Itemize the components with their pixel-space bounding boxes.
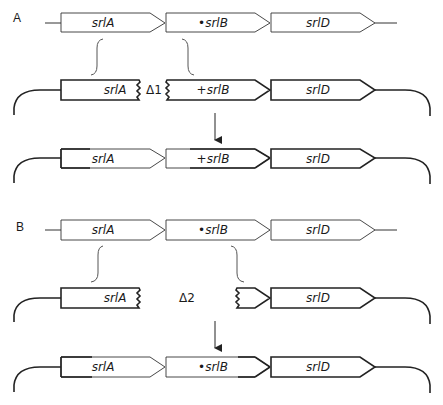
gene-label: srlA (104, 83, 127, 97)
crossover-bracket-left (91, 246, 103, 282)
deletion-label: Δ2 (179, 291, 195, 305)
gene-srlA-truncated (61, 80, 140, 100)
chromosome-right (375, 90, 430, 116)
gene-label: srlA (92, 152, 115, 166)
gene-label: •srlB (198, 360, 228, 374)
chromosome-left (14, 90, 61, 115)
crossover-bracket-right (182, 39, 194, 75)
gene-label: srlA (92, 223, 115, 237)
panel-b: B srlA •srlB srlD srlA Δ2 srlD (14, 220, 430, 393)
panel-b-row3-result: srlA •srlB srlD (14, 357, 430, 393)
gene-label: srlA (104, 291, 127, 305)
chromosome-left (14, 298, 61, 322)
chromosome-right (375, 298, 430, 324)
deletion-label: Δ1 (146, 83, 162, 97)
gene-srlA-truncated (61, 288, 140, 308)
panel-b-row2-recipient: srlA Δ2 srlD (14, 288, 430, 324)
chromosome-right (375, 158, 430, 184)
crossover-bracket-right (231, 246, 244, 282)
panel-a-row3-result: srlA +srlB srlD (14, 149, 430, 184)
gene-label: srlA (92, 16, 115, 30)
panel-a-row1-donor: srlA •srlB srlD (45, 13, 397, 32)
chromosome-right (375, 367, 430, 393)
crossover-bracket-left (91, 39, 103, 75)
gene-label: •srlB (198, 16, 228, 30)
panel-a: A srlA •srlB srlD srlA Δ1 +srlB srlD (13, 11, 430, 184)
gene-srlB-fragment (236, 288, 270, 308)
panel-a-label: A (13, 11, 21, 25)
panel-b-row1-donor: srlA •srlB srlD (45, 220, 397, 240)
chromosome-left (14, 367, 61, 392)
panel-b-label: B (16, 220, 24, 234)
gene-label: srlD (306, 223, 330, 237)
gene-recombination-diagram: A srlA •srlB srlD srlA Δ1 +srlB srlD (0, 0, 443, 405)
gene-label: srlD (306, 83, 330, 97)
gene-label: +srlB (197, 152, 230, 166)
panel-a-row2-recipient: srlA Δ1 +srlB srlD (14, 80, 430, 116)
gene-label: srlA (92, 360, 115, 374)
gene-label: +srlB (197, 83, 230, 97)
gene-label: srlD (306, 16, 330, 30)
gene-label: •srlB (198, 223, 228, 237)
gene-label: srlD (306, 291, 330, 305)
gene-label: srlD (306, 360, 330, 374)
chromosome-left (14, 158, 61, 183)
gene-label: srlD (306, 152, 330, 166)
